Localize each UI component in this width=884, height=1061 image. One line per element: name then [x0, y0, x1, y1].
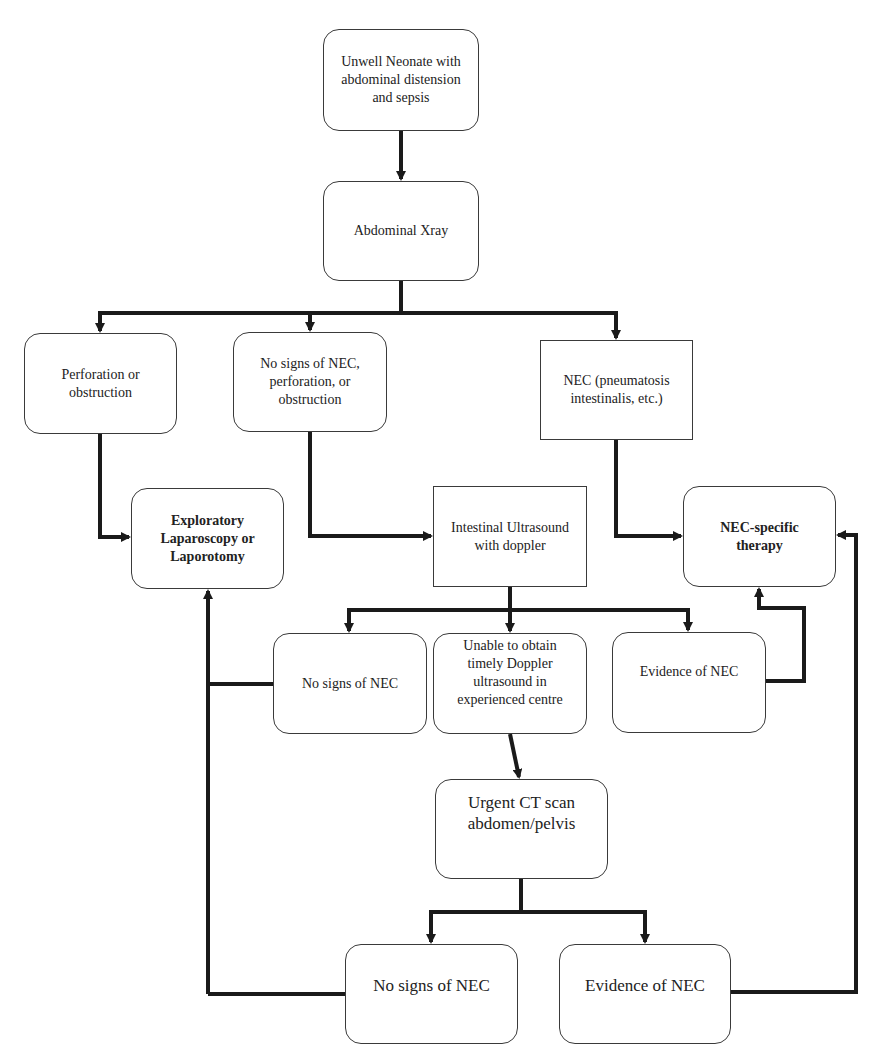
- node-label: Abdominal Xray: [354, 222, 448, 240]
- edge-xray-to-perforation: [100, 313, 401, 331]
- edge-ultrasound-to-evidence: [510, 610, 688, 630]
- node-nec-specific-therapy: NEC-specific therapy: [683, 486, 836, 587]
- node-label: No signs of NEC: [373, 975, 490, 996]
- node-ct-evidence-of-nec: Evidence of NEC: [559, 944, 731, 1044]
- node-unwell-neonate: Unwell Neonate with abdominal distension…: [323, 29, 479, 131]
- edge-ct-evidence-to-therapy: [731, 535, 856, 992]
- node-label: Evidence of NEC: [640, 663, 739, 681]
- node-ct-no-signs-of-nec: No signs of NEC: [345, 944, 518, 1044]
- edge-xray-to-nec: [401, 313, 616, 338]
- edge-ultrasound-to-no-signs: [349, 610, 510, 631]
- node-us-no-signs-of-nec: No signs of NEC: [273, 633, 427, 734]
- edge-perforation-to-exploratory: [100, 434, 129, 537]
- node-label: NEC-specific therapy: [720, 519, 799, 555]
- edge-ct-to-no-signs: [431, 912, 521, 942]
- node-nec-pneumatosis: NEC (pneumatosis intestinalis, etc.): [540, 340, 693, 440]
- node-label: Exploratory Laparoscopy or Laporotomy: [160, 512, 254, 566]
- node-urgent-ct-scan: Urgent CT scan abdomen/pelvis: [435, 779, 608, 879]
- node-label: Perforation or obstruction: [61, 366, 139, 402]
- node-us-evidence-of-nec: Evidence of NEC: [612, 632, 766, 733]
- node-intestinal-ultrasound: Intestinal Ultrasound with doppler: [433, 486, 587, 587]
- node-perforation-or-obstruction: Perforation or obstruction: [24, 333, 177, 434]
- edge-unable-to-ct: [510, 734, 519, 777]
- node-label: NEC (pneumatosis intestinalis, etc.): [563, 372, 669, 408]
- node-unable-to-obtain-doppler: Unable to obtain timely Doppler ultrasou…: [433, 633, 587, 734]
- edge-nec-to-therapy: [616, 440, 681, 536]
- node-label: No signs of NEC: [302, 675, 398, 693]
- node-label: Intestinal Ultrasound with doppler: [451, 519, 569, 555]
- node-label: Urgent CT scan abdomen/pelvis: [468, 792, 576, 834]
- node-label: No signs of NEC, perforation, or obstruc…: [260, 355, 360, 409]
- node-abdominal-xray: Abdominal Xray: [323, 181, 479, 281]
- edge-ct-to-evidence: [521, 912, 645, 942]
- node-exploratory-laparoscopy: Exploratory Laparoscopy or Laporotomy: [131, 488, 284, 589]
- node-label: Evidence of NEC: [585, 975, 705, 996]
- node-no-signs-xray: No signs of NEC, perforation, or obstruc…: [233, 332, 387, 432]
- node-label: Unable to obtain timely Doppler ultrasou…: [457, 637, 562, 709]
- edge-no-signs-to-ultrasound: [310, 432, 431, 536]
- node-label: Unwell Neonate with abdominal distension…: [341, 53, 461, 107]
